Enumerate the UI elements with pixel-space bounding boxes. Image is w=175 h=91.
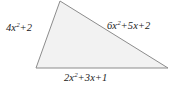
- bottom-coefficient-3: 1: [102, 72, 107, 83]
- right-operator-3: +: [138, 20, 145, 31]
- triangle-polygon: [36, 1, 168, 68]
- left-operator-2: +: [20, 22, 27, 33]
- triangle-figure: 4x2+2 6x2+5x+2 2x2+3x+1: [0, 0, 175, 91]
- bottom-operator-2: +: [78, 72, 85, 83]
- right-operator-2: +: [121, 20, 128, 31]
- side-label-bottom: 2x2+3x+1: [64, 73, 107, 84]
- bottom-operator-3: +: [95, 72, 102, 83]
- side-label-left: 4x2+2: [6, 23, 32, 34]
- left-coefficient-2: 2: [27, 22, 32, 33]
- side-label-right: 6x2+5x+2: [107, 21, 150, 32]
- right-coefficient-3: 2: [145, 20, 150, 31]
